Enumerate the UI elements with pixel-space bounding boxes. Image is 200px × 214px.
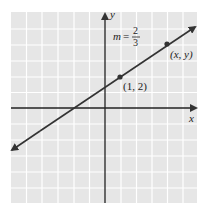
- point-x-y: [164, 41, 169, 46]
- slope-denominator: 3: [133, 37, 138, 48]
- svg-text:m: m: [113, 30, 121, 42]
- point-1-2: [117, 74, 122, 79]
- y-axis-label: y: [109, 8, 115, 20]
- point-label-x-y: (x, y): [170, 48, 193, 61]
- point-label-1-2: (1, 2): [123, 80, 147, 93]
- coordinate-plane-figure: x y m = 2 3 (1, 2) (x, y): [0, 0, 200, 214]
- slope-numerator: 2: [133, 25, 138, 36]
- svg-text:=: =: [123, 30, 129, 42]
- x-axis-label: x: [188, 112, 194, 124]
